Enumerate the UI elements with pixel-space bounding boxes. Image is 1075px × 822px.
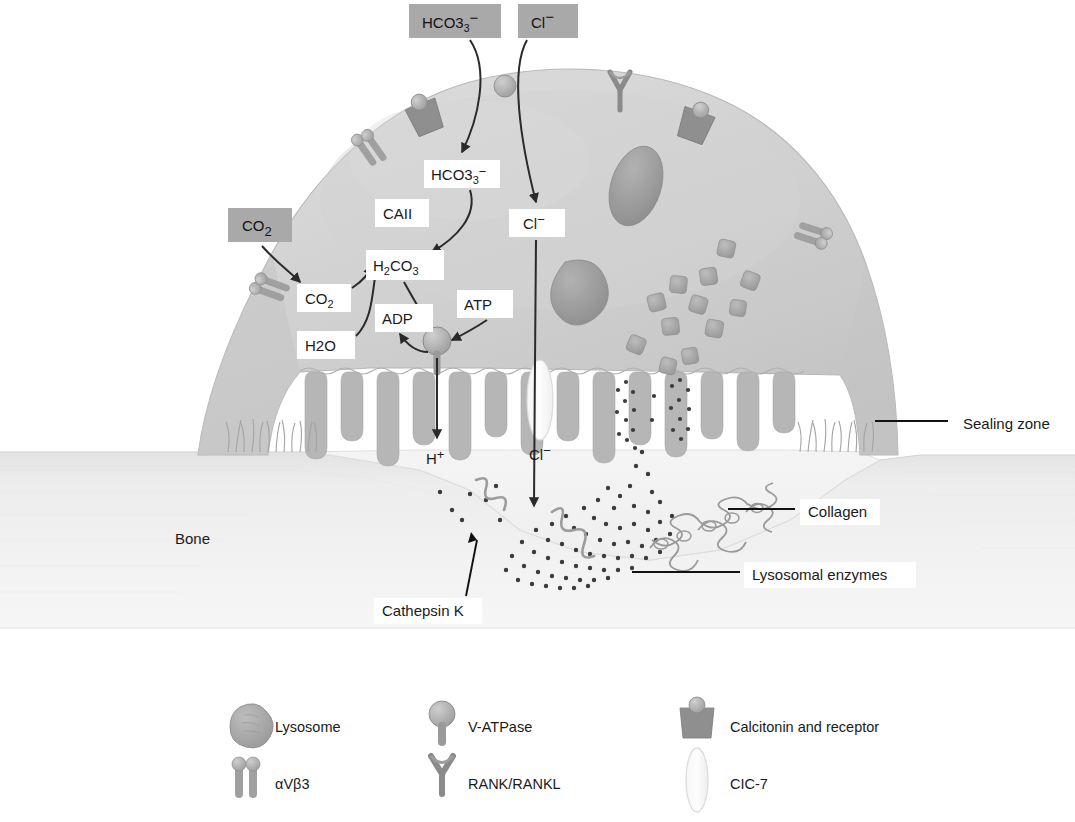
cl-lumen-text: Cl (529, 446, 543, 463)
adp-label: ADP (375, 304, 433, 332)
lysosomal-enzymes-text: Lysosomal enzymes (752, 566, 887, 583)
lysosome-icon (230, 704, 273, 748)
h-plus-text: H (426, 450, 437, 467)
h2o-label: H2O (297, 331, 355, 359)
bicarbonate-chloride-exchanger (494, 75, 516, 97)
cathepsin-k-callout: Cathepsin K (374, 598, 482, 624)
integrin-icon (232, 757, 260, 794)
vatpase-icon (429, 701, 455, 742)
collagen-text: Collagen (808, 503, 867, 520)
cathepsin-k-text: Cathepsin K (382, 602, 464, 619)
clc7-channel (527, 360, 553, 440)
lysosomal-enzymes-callout: Lysosomal enzymes (744, 562, 916, 588)
rank-icon (431, 756, 453, 794)
atp-text: ATP (464, 296, 492, 313)
legend-label-vatpase: V-ATPase (468, 719, 532, 735)
osteoclast-diagram: HCO33− Cl− CO2 HCO33− CAII (0, 0, 1075, 822)
legend-label-lysosome: Lysosome (275, 719, 341, 735)
caii-label: CAII (375, 199, 429, 227)
cl-internal-label: Cl− (509, 209, 565, 237)
bone-label: Bone (175, 530, 210, 547)
clc7-icon (686, 748, 708, 812)
cl-external-label: Cl− (518, 4, 578, 38)
calcitonin-icon (680, 697, 714, 738)
co2-external-text: CO (242, 217, 265, 234)
hco3-external-text: HCO3 (422, 14, 464, 31)
cl-internal-text: Cl (523, 215, 537, 232)
sealing-zone-callout: Sealing zone (955, 411, 1065, 437)
co2-internal-text: CO (305, 290, 328, 307)
hco3-internal-text: HCO3 (431, 166, 473, 183)
co2-internal-label: CO2 (297, 284, 351, 312)
adp-text: ADP (382, 310, 413, 327)
collagen-callout: Collagen (800, 499, 880, 525)
hco3-internal-label: HCO33− (424, 160, 500, 188)
legend: Lysosome V-ATPase Calcitonin and recepto… (230, 697, 879, 812)
diagram-canvas: HCO33− Cl− CO2 HCO33− CAII (0, 0, 1075, 822)
h2o-text: H2O (305, 337, 336, 354)
svg-text:HCO33−: HCO33− (431, 164, 486, 186)
legend-label-clc7: CIC-7 (730, 776, 768, 792)
caii-text: CAII (383, 205, 412, 222)
hco3-external-label: HCO33− (409, 4, 501, 38)
atp-label: ATP (457, 290, 513, 318)
legend-label-calcitonin: Calcitonin and receptor (730, 719, 879, 735)
sealing-zone-text: Sealing zone (963, 415, 1050, 432)
cl-external-text: Cl (531, 14, 545, 31)
legend-label-rank: RANK/RANKL (468, 776, 561, 792)
legend-label-avb3: αVβ3 (275, 776, 309, 792)
co2-external-label: CO2 (228, 208, 292, 242)
